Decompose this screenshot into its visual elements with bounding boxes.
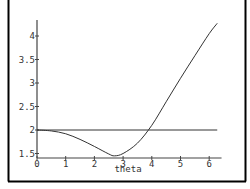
y-tick-label: 1.5 [19,149,35,159]
y-tick-label: 2 [30,125,35,135]
x-tick-label: 2 [92,159,97,169]
axes: 01234561.522.533.54 [19,20,222,169]
series-line-curve [37,23,217,156]
x-tick-label: 5 [178,159,183,169]
y-tick-label: 4 [30,31,35,41]
x-tick-label: 1 [63,159,68,169]
plot-frame: 01234561.522.533.54 theta [0,0,250,189]
x-axis-label: theta [114,164,141,174]
y-tick-label: 3.5 [19,55,35,65]
data-series [37,23,217,156]
x-tick-label: 4 [149,159,154,169]
x-tick-label: 6 [206,159,211,169]
y-tick-label: 3 [30,78,35,88]
x-tick-label: 0 [34,159,39,169]
y-tick-label: 2.5 [19,102,35,112]
